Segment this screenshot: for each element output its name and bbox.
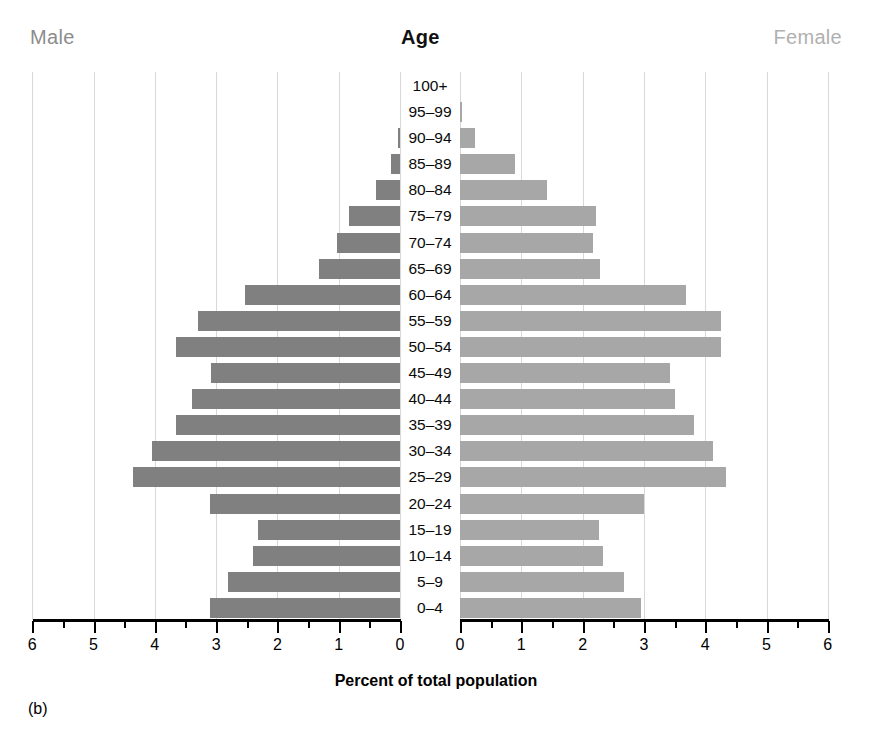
age-band-row: 40–44 bbox=[33, 385, 828, 414]
bar-female-80–84 bbox=[460, 180, 547, 200]
bar-male-10–14 bbox=[253, 546, 400, 566]
age-band-row: 90–94 bbox=[33, 124, 828, 153]
x-tick-label-female-0: 0 bbox=[445, 636, 475, 654]
male-header-label: Male bbox=[30, 26, 75, 49]
x-tick bbox=[339, 621, 341, 633]
age-band-label: 15–19 bbox=[400, 519, 460, 540]
age-band-row: 20–24 bbox=[33, 490, 828, 519]
bar-male-70–74 bbox=[337, 233, 400, 253]
bar-male-40–44 bbox=[192, 389, 400, 409]
x-tick bbox=[400, 621, 402, 633]
x-tick-label-female-6: 6 bbox=[813, 636, 843, 654]
population-pyramid-figure: Male Age Female 100+95–9990–9485–8980–84… bbox=[0, 0, 872, 736]
bar-female-35–39 bbox=[460, 415, 694, 435]
age-band-label: 5–9 bbox=[400, 571, 460, 592]
age-band-row: 55–59 bbox=[33, 307, 828, 336]
x-tick bbox=[491, 621, 493, 628]
bar-female-25–29 bbox=[460, 467, 726, 487]
bar-female-10–14 bbox=[460, 546, 603, 566]
bar-male-20–24 bbox=[210, 494, 400, 514]
bar-female-90–94 bbox=[460, 128, 475, 148]
bar-female-50–54 bbox=[460, 337, 721, 357]
x-tick bbox=[155, 621, 157, 633]
age-band-row: 45–49 bbox=[33, 359, 828, 388]
x-tick bbox=[277, 621, 279, 633]
age-band-label: 30–34 bbox=[400, 440, 460, 461]
x-tick-label-male-4: 4 bbox=[140, 636, 170, 654]
x-tick bbox=[124, 621, 126, 628]
plot-area: 100+95–9990–9485–8980–8475–7970–7465–696… bbox=[33, 72, 828, 620]
age-band-label: 90–94 bbox=[400, 127, 460, 148]
age-band-row: 60–64 bbox=[33, 281, 828, 310]
bar-female-75–79 bbox=[460, 206, 596, 226]
age-band-row: 95–99 bbox=[33, 98, 828, 127]
bar-male-5–9 bbox=[228, 572, 400, 592]
bar-female-70–74 bbox=[460, 233, 593, 253]
x-tick-label-male-6: 6 bbox=[17, 636, 47, 654]
x-tick bbox=[521, 621, 523, 633]
age-band-label: 75–79 bbox=[400, 205, 460, 226]
age-band-row: 70–74 bbox=[33, 229, 828, 258]
age-band-label: 20–24 bbox=[400, 493, 460, 514]
age-band-row: 65–69 bbox=[33, 255, 828, 284]
x-tick bbox=[185, 621, 187, 628]
age-band-label: 65–69 bbox=[400, 258, 460, 279]
age-band-label: 60–64 bbox=[400, 284, 460, 305]
x-axis-title: Percent of total population bbox=[0, 672, 872, 690]
x-tick bbox=[736, 621, 738, 628]
age-band-row: 80–84 bbox=[33, 176, 828, 205]
x-tick bbox=[247, 621, 249, 628]
age-band-label: 0–4 bbox=[400, 597, 460, 618]
age-band-row: 15–19 bbox=[33, 516, 828, 545]
bar-male-0–4 bbox=[210, 598, 400, 618]
bar-male-50–54 bbox=[176, 337, 400, 357]
age-band-label: 85–89 bbox=[400, 153, 460, 174]
bar-male-25–29 bbox=[133, 467, 400, 487]
age-band-row: 25–29 bbox=[33, 463, 828, 492]
bar-male-85–89 bbox=[391, 154, 400, 174]
x-tick bbox=[308, 621, 310, 628]
bar-female-65–69 bbox=[460, 259, 600, 279]
age-band-label: 55–59 bbox=[400, 310, 460, 331]
bar-male-15–19 bbox=[258, 520, 400, 540]
age-band-row: 30–34 bbox=[33, 437, 828, 466]
bar-male-60–64 bbox=[245, 285, 400, 305]
x-tick bbox=[797, 621, 799, 628]
bar-female-20–24 bbox=[460, 494, 644, 514]
x-tick bbox=[32, 621, 34, 633]
bar-male-55–59 bbox=[198, 311, 400, 331]
age-band-label: 45–49 bbox=[400, 362, 460, 383]
age-band-label: 80–84 bbox=[400, 179, 460, 200]
bar-female-15–19 bbox=[460, 520, 599, 540]
x-tick-label-female-1: 1 bbox=[506, 636, 536, 654]
bar-female-0–4 bbox=[460, 598, 641, 618]
age-band-row: 50–54 bbox=[33, 333, 828, 362]
age-band-row: 5–9 bbox=[33, 568, 828, 597]
bar-male-30–34 bbox=[152, 441, 400, 461]
x-tick bbox=[460, 621, 462, 633]
age-band-row: 85–89 bbox=[33, 150, 828, 179]
x-tick-label-male-0: 0 bbox=[385, 636, 415, 654]
x-tick-label-female-4: 4 bbox=[690, 636, 720, 654]
x-tick bbox=[63, 621, 65, 628]
panel-label: (b) bbox=[28, 700, 48, 718]
x-tick bbox=[613, 621, 615, 628]
bar-male-45–49 bbox=[211, 363, 400, 383]
female-header-label: Female bbox=[774, 26, 843, 49]
x-tick bbox=[369, 621, 371, 628]
age-header-label: Age bbox=[401, 26, 440, 49]
age-band-label: 95–99 bbox=[400, 101, 460, 122]
age-band-label: 35–39 bbox=[400, 414, 460, 435]
x-tick bbox=[216, 621, 218, 633]
bar-male-35–39 bbox=[176, 415, 400, 435]
x-tick-label-female-3: 3 bbox=[629, 636, 659, 654]
x-tick-label-male-5: 5 bbox=[79, 636, 109, 654]
bar-female-30–34 bbox=[460, 441, 713, 461]
age-band-row: 75–79 bbox=[33, 202, 828, 231]
x-tick bbox=[675, 621, 677, 628]
x-tick-label-female-5: 5 bbox=[752, 636, 782, 654]
x-tick bbox=[705, 621, 707, 633]
x-tick bbox=[583, 621, 585, 633]
bar-female-45–49 bbox=[460, 363, 670, 383]
bar-male-65–69 bbox=[319, 259, 400, 279]
